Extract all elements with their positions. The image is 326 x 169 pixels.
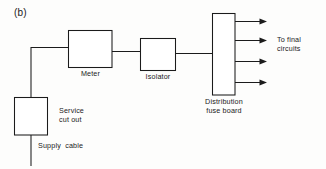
cutout-to-meter-conductor	[31, 48, 68, 98]
to-final-circuits-label: To final circuits	[277, 36, 323, 53]
distribution-fuse-board-block	[213, 14, 236, 96]
distribution-fuse-board-label-line-2: fuse board	[192, 107, 256, 116]
isolator-block	[141, 39, 176, 71]
to-final-circuits-label-line-2: circuits	[277, 45, 323, 54]
service-cut-out-label-line-2: cut out	[59, 116, 115, 125]
supply-cable-label: Supply cable	[38, 142, 83, 151]
distribution-fuse-board-label: Distribution fuse board	[192, 98, 256, 115]
final-circuit-feeder-3	[235, 58, 267, 64]
service-cut-out-label: Service cut out	[59, 107, 115, 124]
figure-canvas: (b) Meter Isolator Distribution fuse boa…	[0, 0, 326, 169]
meter-label: Meter	[68, 70, 113, 79]
final-circuit-feeder-4	[235, 79, 267, 85]
final-circuit-feeder-1	[235, 18, 267, 24]
final-circuit-feeder-2	[235, 37, 267, 43]
isolator-label: Isolator	[138, 73, 178, 82]
meter-block	[69, 31, 113, 68]
service-cut-out-block	[15, 98, 48, 136]
panel-label: (b)	[14, 9, 27, 18]
